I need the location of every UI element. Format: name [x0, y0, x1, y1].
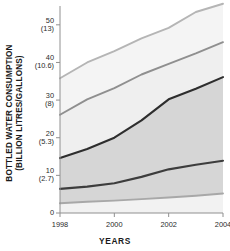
x-tick-label-2004: 2004 — [206, 220, 230, 229]
x-axis-title: YEARS — [0, 236, 230, 246]
y-tick-label-50: 50(13) — [30, 17, 54, 33]
bottled-water-consumption-chart: BOTTLED WATER CONSUMPTION (BILLION LITRE… — [0, 0, 230, 251]
x-tick-label-1998: 1998 — [43, 220, 77, 229]
y-tick-label-0: 0 — [30, 209, 54, 217]
y-tick-label-30: 30(8) — [30, 92, 54, 108]
y-tick-label-10: 10(2.7) — [30, 167, 54, 183]
y-tick-label-40: 40(10.6) — [30, 54, 54, 70]
x-tick-label-2002: 2002 — [152, 220, 186, 229]
x-tick-label-2000: 2000 — [97, 220, 131, 229]
y-tick-label-20: 20(5.3) — [30, 130, 54, 146]
